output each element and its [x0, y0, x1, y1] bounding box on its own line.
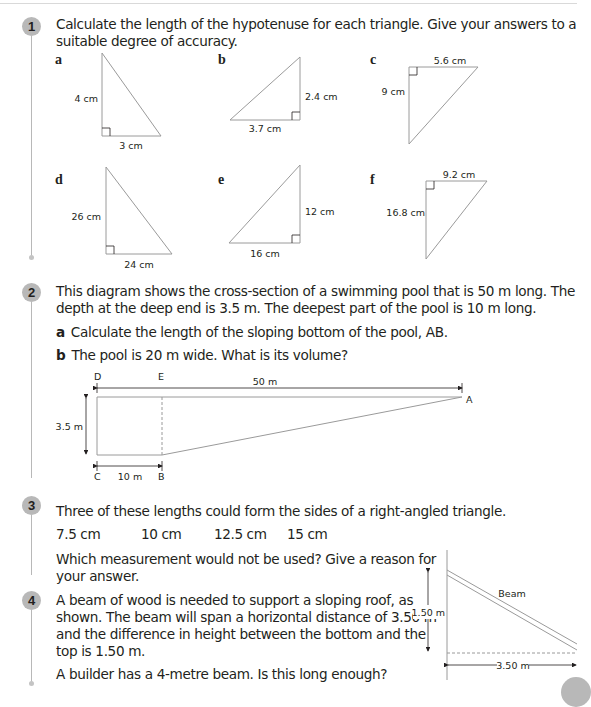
label-3.50m: 3.50 m: [496, 660, 529, 671]
question-number-4: 4: [22, 591, 41, 610]
label-50m: 50 m: [253, 376, 277, 387]
question-2-text-line2: depth at the deep end is 3.5 m. The deep…: [56, 300, 536, 317]
question-2-part-b: bThe pool is 20 m wide. What is its volu…: [56, 347, 348, 363]
question-4-line1: A beam of wood is needed to support a sl…: [56, 592, 413, 609]
question-3-question-line1: Which measurement would not be used? Giv…: [56, 551, 436, 568]
triangle-e-side1: 12 cm: [305, 206, 335, 217]
length-3: 12.5 cm: [214, 526, 267, 542]
right-angle-e: [292, 235, 300, 243]
label-1.50m: 1.50 m: [412, 607, 445, 618]
question-4-rule: [31, 610, 32, 682]
point-A: A: [466, 394, 473, 405]
triangle-c-side1: 5.6 cm: [434, 55, 467, 66]
point-B: B: [158, 471, 165, 480]
right-angle-d: [106, 246, 114, 254]
triangle-d: [106, 167, 172, 254]
question-4-rule-end: [29, 681, 34, 686]
question-number-2: 2: [22, 283, 41, 302]
question-4-line3: and the difference in height between the…: [56, 626, 426, 643]
page-corner-tab: [561, 677, 591, 707]
part-a-text: Calculate the length of the sloping bott…: [71, 324, 448, 340]
question-number-3: 3: [22, 496, 41, 515]
question-2-part-a: aCalculate the length of the sloping bot…: [56, 324, 448, 340]
length-2: 10 cm: [141, 526, 181, 542]
label-beam: Beam: [498, 588, 525, 599]
right-angle-b: [292, 112, 300, 120]
label-3.5m: 3.5 m: [56, 421, 83, 432]
length-1: 7.5 cm: [56, 526, 100, 542]
beam-diagram: 3.50 m 1.50 m Beam: [410, 550, 577, 697]
triangle-f-side2: 16.8 cm: [386, 207, 425, 218]
question-3-text: Three of these lengths could form the si…: [56, 503, 506, 520]
length-4: 15 cm: [287, 526, 327, 542]
right-angle-f: [426, 181, 434, 189]
question-3-question-line2: your answer.: [56, 568, 139, 585]
beam-upper-edge: [447, 570, 577, 644]
point-E: E: [158, 371, 164, 382]
question-3-rule: [31, 515, 32, 575]
label-10m: 10 m: [118, 471, 142, 480]
triangle-c-side2: 9 cm: [381, 86, 405, 97]
triangles-figure: 4 cm 3 cm 2.4 cm 3.7 cm 5.6 cm 9 cm 26 c…: [0, 0, 577, 280]
question-2-text-line1: This diagram shows the cross-section of …: [56, 283, 575, 300]
triangle-e: [229, 165, 300, 243]
triangle-a: [102, 53, 161, 136]
triangle-d-side2: 24 cm: [124, 259, 154, 270]
triangle-b-side2: 3.7 cm: [249, 123, 282, 134]
part-b-label: b: [56, 347, 65, 363]
triangle-a-side2: 3 cm: [119, 140, 143, 151]
point-D: D: [94, 371, 101, 382]
pool-slope-AB: [162, 397, 462, 455]
part-a-label: a: [56, 324, 65, 340]
part-b-text: The pool is 20 m wide. What is its volum…: [71, 347, 347, 363]
beam-lower-edge: [447, 575, 577, 650]
question-4-question: A builder has a 4-metre beam. Is this lo…: [56, 666, 387, 683]
triangle-b: [230, 57, 300, 120]
triangle-e-side2: 16 cm: [250, 248, 280, 259]
triangle-f: [426, 181, 487, 259]
question-4-line2: shown. The beam will span a horizontal d…: [56, 609, 437, 626]
question-4-line4: top is 1.50 m.: [56, 643, 145, 660]
triangle-b-side1: 2.4 cm: [305, 91, 338, 102]
triangle-a-side1: 4 cm: [74, 93, 98, 104]
triangle-d-side1: 26 cm: [71, 211, 101, 222]
point-C: C: [94, 471, 101, 480]
right-angle-a: [102, 128, 110, 136]
right-angle-c: [409, 67, 417, 75]
triangle-c: [409, 67, 478, 144]
triangle-f-side1: 9.2 cm: [443, 169, 476, 180]
pool-diagram: D E A C B 50 m 3.5 m 10 m: [0, 370, 577, 480]
